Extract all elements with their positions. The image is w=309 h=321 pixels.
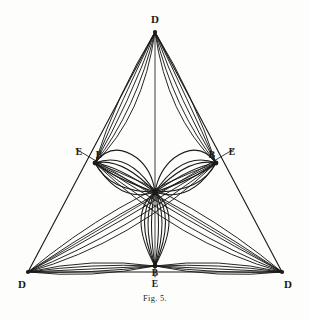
label-bottom-e: E bbox=[152, 279, 158, 289]
figure-caption: Fig. 5. bbox=[143, 293, 167, 303]
label-bottom-left-d: D bbox=[18, 278, 26, 290]
label-bottom-right-d: D bbox=[284, 278, 292, 290]
node-right-b bbox=[214, 161, 219, 166]
median-lines bbox=[28, 32, 282, 277]
label-bottom-b: B bbox=[152, 268, 159, 278]
geometric-figure-svg: D D D B B B A E E E Fig. 5. bbox=[0, 0, 309, 321]
node-bottomright-d bbox=[280, 270, 284, 274]
label-right-e: E bbox=[229, 147, 235, 157]
node-left-b bbox=[93, 161, 98, 166]
label-left-b: B bbox=[96, 150, 103, 160]
label-apex-d: D bbox=[151, 13, 159, 25]
figure-container: D D D B B B A E E E Fig. 5. bbox=[0, 0, 309, 321]
arc-bundle-apex-to-left-b bbox=[95, 32, 155, 163]
node-bottomleft-d bbox=[26, 270, 30, 274]
label-centre-a: A bbox=[152, 193, 159, 203]
label-left-e: E bbox=[76, 147, 82, 157]
node-apex-d bbox=[153, 30, 157, 34]
arc-bundle-apex-to-right-b bbox=[155, 32, 216, 163]
label-right-b: B bbox=[209, 150, 216, 160]
